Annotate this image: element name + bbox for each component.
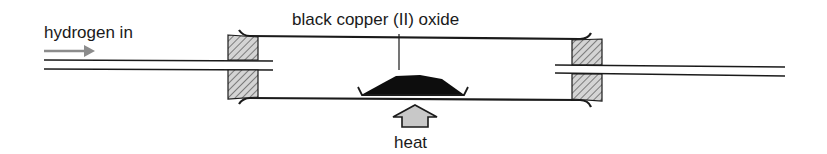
porcelain-boat	[358, 75, 468, 95]
inlet-tube	[44, 60, 273, 70]
apparatus-diagram: hydrogen in black copper (II) oxide	[0, 0, 827, 154]
heat-label: heat	[394, 133, 427, 152]
heat-arrow-icon	[393, 105, 437, 127]
copper-oxide-pile	[363, 75, 463, 94]
copper-oxide-label: black copper (II) oxide	[292, 10, 459, 29]
hydrogen-in-label: hydrogen in	[44, 23, 133, 42]
right-stopper	[572, 39, 602, 101]
left-stopper	[228, 35, 258, 99]
inlet-arrow-icon	[44, 45, 95, 57]
